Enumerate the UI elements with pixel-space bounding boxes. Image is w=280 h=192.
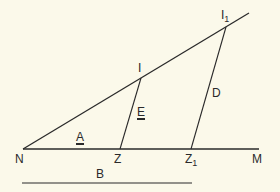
label-I1-sub: 1: [224, 14, 229, 24]
label-M: M: [252, 153, 262, 165]
label-B: B: [96, 168, 104, 180]
label-I: I: [138, 62, 141, 74]
label-I1: I1: [221, 9, 229, 24]
label-D: D: [212, 87, 221, 99]
label-Z: Z: [114, 153, 121, 165]
label-E: E: [137, 106, 145, 118]
label-Z1: Z1: [185, 153, 197, 168]
label-angle-A: A: [76, 131, 84, 143]
label-N: N: [15, 153, 24, 165]
label-Z1-sub: 1: [192, 158, 197, 168]
slanted-line-N-ray: [23, 13, 249, 149]
diagram-lines: [0, 0, 280, 192]
geometry-diagram: N Z Z1 M I I1 A E D B: [0, 0, 280, 192]
